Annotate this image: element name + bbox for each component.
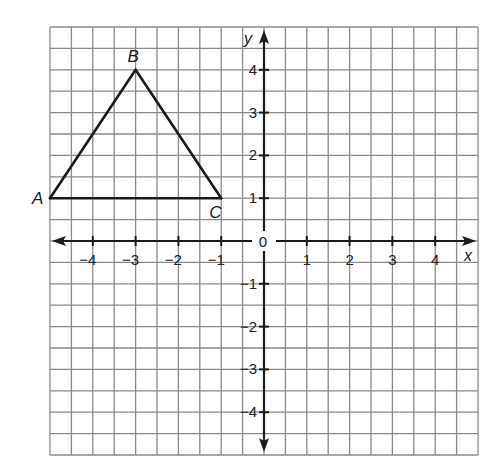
x-tick-label: −3 [122, 251, 139, 268]
x-tick-label: −2 [165, 251, 182, 268]
coordinate-plane: 0 x y −4−3−2−11234−4−3−2−11234 ABC [0, 0, 492, 471]
y-tick-label: 2 [249, 146, 257, 163]
y-tick-label: −2 [240, 318, 257, 335]
vertex-label-b: B [128, 47, 139, 66]
x-tick-label: −1 [208, 251, 225, 268]
vertex-label-a: A [31, 189, 43, 208]
y-tick-label: −4 [240, 403, 257, 420]
x-tick-label: 1 [303, 251, 311, 268]
y-axis-name: y [243, 30, 253, 47]
y-tick-label: −3 [240, 360, 257, 377]
x-tick-label: 4 [431, 251, 439, 268]
y-tick-label: 3 [249, 104, 257, 121]
x-tick-label: −4 [79, 251, 96, 268]
origin-label: 0 [259, 233, 267, 250]
vertex-label-c: C [209, 203, 222, 222]
y-tick-label: −1 [240, 275, 257, 292]
x-axis-name: x [463, 247, 473, 264]
x-tick-label: 2 [345, 251, 353, 268]
y-tick-label: 1 [249, 189, 257, 206]
x-tick-label: 3 [388, 251, 396, 268]
y-tick-label: 4 [249, 61, 257, 78]
